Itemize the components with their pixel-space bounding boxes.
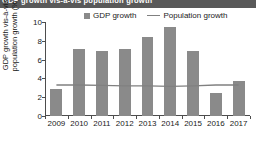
y-tick-label: 0 (38, 112, 42, 121)
y-axis-title: GDP growth vis-à-vis population growth (… (1, 0, 19, 83)
x-tick-label: 2015 (184, 119, 202, 128)
title-banner-text: GDP growth vis-a-vis population growth (2, 0, 152, 5)
x-tick-mark (68, 116, 69, 119)
x-tick-mark (113, 116, 114, 119)
chart-figure: GDP growth vis-a-vis population growth G… (0, 0, 256, 141)
x-tick-mark (45, 116, 46, 119)
x-tick-label: 2011 (93, 119, 110, 128)
y-axis-title-line-2: population growth (%) (10, 0, 19, 83)
y-tick-label: 8 (38, 36, 42, 45)
title-banner: GDP growth vis-a-vis population growth (0, 0, 256, 8)
y-tick-label: 10 (33, 18, 42, 27)
y-tick-label: 6 (38, 55, 42, 64)
x-tick-mark (227, 116, 228, 119)
x-tick-mark (204, 116, 205, 119)
plot-area: 0246810 20092010201120122013201420152016… (45, 22, 250, 116)
x-tick-label: 2017 (230, 119, 248, 128)
legend-item-population-growth: Population growth (147, 11, 227, 20)
x-tick-mark (159, 116, 160, 119)
y-tick-label: 4 (38, 74, 42, 83)
legend-label-population-growth: Population growth (163, 11, 227, 20)
x-tick-mark (91, 116, 92, 119)
x-tick-label: 2012 (116, 119, 134, 128)
x-tick-mark (182, 116, 183, 119)
population-growth-polyline (56, 85, 238, 86)
legend-item-gdp-growth: GDP growth (84, 11, 136, 20)
y-tick-label: 2 (38, 93, 42, 102)
square-swatch-icon (84, 13, 90, 19)
y-axis-title-line-1: GDP growth vis-à-vis (1, 0, 10, 83)
chart-legend: GDP growth Population growth (84, 11, 227, 20)
x-tick-label: 2010 (70, 119, 88, 128)
x-tick-mark (136, 116, 137, 119)
line-series-population-growth (45, 22, 250, 116)
legend-label-gdp-growth: GDP growth (93, 11, 136, 20)
x-tick-label: 2009 (47, 119, 65, 128)
x-tick-mark (250, 116, 251, 119)
line-swatch-icon (147, 15, 160, 16)
x-tick-label: 2016 (207, 119, 225, 128)
x-tick-label: 2014 (161, 119, 179, 128)
x-tick-label: 2013 (139, 119, 157, 128)
